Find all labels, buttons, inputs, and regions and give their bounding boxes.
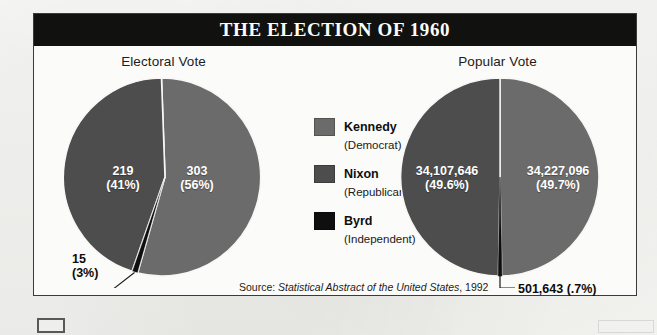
electoral-kennedy-votes: 303 — [187, 164, 208, 178]
figure-title-banner: THE ELECTION OF 1960 — [34, 14, 636, 46]
electoral-kennedy-value-label: 303 (56%) — [166, 164, 228, 192]
popular-nixon-percent: (49.6%) — [425, 178, 469, 192]
legend-name-nixon: Nixon — [344, 167, 379, 181]
legend-name-byrd: Byrd — [344, 214, 372, 228]
source-prefix: Source: — [239, 281, 278, 293]
popular-kennedy-value-label: 34,227,096 (49.7%) — [506, 164, 610, 192]
electoral-byrd-votes: 15 — [72, 252, 86, 266]
legend-text-kennedy: Kennedy (Democrat) — [344, 117, 402, 153]
popular-chart-title: Popular Vote — [430, 54, 565, 69]
nixon-color-swatch-icon — [314, 165, 335, 183]
byrd-color-swatch-icon — [314, 212, 335, 230]
figure-title: THE ELECTION OF 1960 — [220, 19, 450, 41]
popular-kennedy-votes: 34,227,096 — [527, 164, 590, 178]
electoral-byrd-percent: (3%) — [72, 266, 98, 280]
figure-frame: THE ELECTION OF 1960 Electoral Vote 303 … — [33, 13, 637, 296]
popular-byrd-leader-line — [500, 276, 515, 288]
popular-byrd-value-label: 501,643 (.7%) — [518, 282, 597, 296]
source-citation: Source: Statistical Abstract of the Unit… — [239, 281, 488, 293]
legend-party-kennedy: (Democrat) — [344, 139, 402, 151]
source-year: , 1992 — [459, 281, 488, 293]
popular-nixon-votes: 34,107,646 — [416, 164, 479, 178]
source-publication-title: Statistical Abstract of the United State… — [278, 281, 459, 293]
legend-name-kennedy: Kennedy — [344, 120, 397, 134]
electoral-chart-title: Electoral Vote — [96, 54, 231, 69]
electoral-nixon-value-label: 219 (41%) — [92, 164, 154, 192]
kennedy-color-swatch-icon — [314, 118, 335, 136]
electoral-byrd-value-label: 15 (3%) — [72, 252, 128, 280]
page-artifact-box-right — [598, 320, 654, 333]
electoral-nixon-votes: 219 — [113, 164, 134, 178]
popular-nixon-value-label: 34,107,646 (49.6%) — [395, 164, 499, 192]
electoral-kennedy-percent: (56%) — [180, 178, 213, 192]
page-artifact-box-left — [37, 318, 65, 333]
electoral-nixon-percent: (41%) — [106, 178, 139, 192]
popular-kennedy-percent: (49.7%) — [536, 178, 580, 192]
